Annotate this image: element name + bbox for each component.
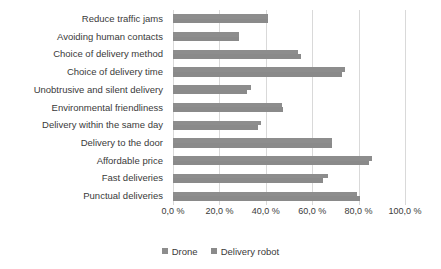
bar-group [173,28,405,46]
bar-chart: Reduce traffic jamsAvoiding human contac… [0,0,441,269]
value-tick-label: 40,0 % [252,206,280,216]
value-tick-label: 0,0 % [161,206,184,216]
bar-group [173,134,405,152]
legend-swatch-icon [162,248,168,254]
category-label: Avoiding human contacts [57,32,163,42]
plot-area [173,10,405,205]
value-tick-label: 80,0 % [345,206,373,216]
value-tick-label: 20,0 % [205,206,233,216]
bar-delivery-robot [173,125,258,130]
category-label: Unobtrusive and silent delivery [34,85,163,95]
category-label: Affordable price [97,156,163,166]
bar-delivery-robot [173,161,369,166]
bar-delivery-robot [173,72,342,77]
bar-group [173,152,405,170]
bar-delivery-robot [173,143,332,148]
value-tick-label: 100,0 % [388,206,421,216]
category-label: Fast deliveries [102,173,163,183]
category-label: Delivery within the same day [42,120,163,130]
bar-group [173,170,405,188]
bar-group [173,99,405,117]
category-label: Reduce traffic jams [82,14,163,24]
category-label: Choice of delivery method [53,49,163,59]
legend-swatch-icon [211,248,217,254]
bar-delivery-robot [173,107,283,112]
category-label: Punctual deliveries [83,191,163,201]
legend-item-drone[interactable]: Drone [162,246,198,257]
bar-group [173,10,405,28]
bar-delivery-robot [173,178,323,183]
category-label: Environmental friendliness [52,103,163,113]
bar-delivery-robot [173,54,301,59]
bar-group [173,81,405,99]
bar-group [173,116,405,134]
legend-item-delivery-robot[interactable]: Delivery robot [211,246,280,257]
bar-group [173,187,405,205]
bar-delivery-robot [173,196,360,201]
gridline-1000 [405,10,406,205]
bar-group [173,63,405,81]
legend-label: Delivery robot [221,246,280,257]
category-axis-labels: Reduce traffic jamsAvoiding human contac… [0,10,168,205]
bar-delivery-robot [173,90,247,95]
bar-group [173,45,405,63]
value-axis-labels: 0,0 %20,0 %40,0 %60,0 %80,0 %100,0 % [0,206,441,226]
bar-delivery-robot [173,37,239,42]
legend-label: Drone [172,246,198,257]
value-tick-label: 60,0 % [298,206,326,216]
category-label: Choice of delivery time [67,67,163,77]
category-label: Delivery to the door [81,138,163,148]
chart-legend: DroneDelivery robot [0,243,441,259]
bar-delivery-robot [173,19,268,24]
